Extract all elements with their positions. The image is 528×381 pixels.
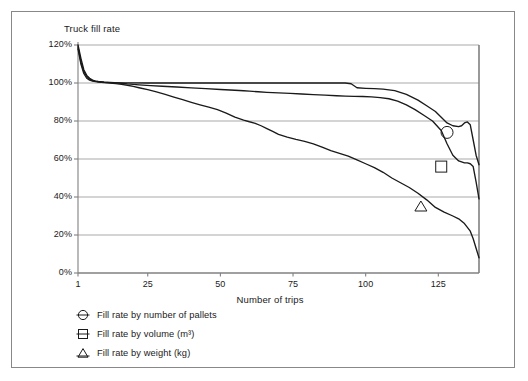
legend-label-volume: Fill rate by volume (m³) xyxy=(97,329,194,339)
series-marker-1 xyxy=(436,161,447,172)
legend-label-pallets: Fill rate by number of pallets xyxy=(97,310,217,320)
legend-item-weight: Fill rate by weight (kg) xyxy=(76,346,217,360)
series-marker-0 xyxy=(441,126,453,138)
x-tick-label-100: 100 xyxy=(346,279,386,289)
x-axis-title: Number of trips xyxy=(237,294,304,305)
x-tick-label-1: 1 xyxy=(58,279,98,289)
triangle-with-line-icon xyxy=(76,346,90,360)
y-tick-label-100: 100% xyxy=(32,77,72,87)
chart-legend: Fill rate by number of pallets Fill rate… xyxy=(76,308,217,360)
series-marker-2 xyxy=(415,201,427,211)
series-line-0 xyxy=(78,45,479,165)
legend-item-pallets: Fill rate by number of pallets xyxy=(76,308,217,322)
square-with-line-icon xyxy=(76,327,90,341)
x-tick-label-75: 75 xyxy=(273,279,313,289)
x-tick-label-25: 25 xyxy=(128,279,168,289)
legend-label-weight: Fill rate by weight (kg) xyxy=(97,348,190,358)
circle-with-line-icon xyxy=(76,308,90,322)
y-tick-label-20: 20% xyxy=(32,229,72,239)
y-tick-label-80: 80% xyxy=(32,115,72,125)
series-line-2 xyxy=(78,49,479,258)
x-tick-label-50: 50 xyxy=(200,279,240,289)
y-tick-label-60: 60% xyxy=(32,153,72,163)
legend-item-volume: Fill rate by volume (m³) xyxy=(76,327,217,341)
series-line-1 xyxy=(78,47,479,199)
y-tick-label-0: 0% xyxy=(32,267,72,277)
figure-frame: Truck fill rate Fill rate by number of p… xyxy=(11,11,515,368)
x-tick-label-125: 125 xyxy=(418,279,458,289)
y-tick-label-120: 120% xyxy=(32,39,72,49)
y-tick-label-40: 40% xyxy=(32,191,72,201)
